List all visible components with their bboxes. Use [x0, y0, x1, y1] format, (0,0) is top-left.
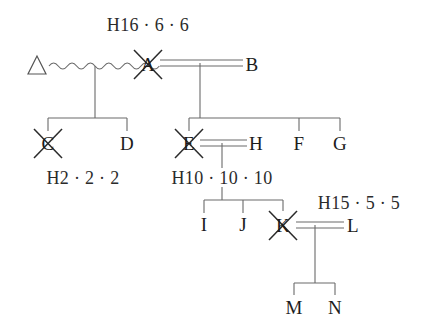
person-label-F[interactable]: F [294, 134, 305, 153]
person-label-K[interactable]: K [276, 216, 290, 235]
person-label-I[interactable]: I [201, 215, 208, 234]
haplotype-label-C: H2 · 2 · 2 [47, 169, 120, 187]
union-K-L-group [294, 222, 344, 295]
person-label-G[interactable]: G [333, 134, 347, 153]
triangle-symbol [28, 56, 46, 74]
person-label-M[interactable]: M [285, 298, 302, 317]
haplotype-label-E: H10 · 10 · 10 [171, 169, 274, 187]
haplotype-label-A: H16 · 6 · 6 [107, 16, 189, 34]
person-label-C[interactable]: C [42, 134, 55, 153]
union-triangle-A-group [28, 56, 159, 131]
person-label-J[interactable]: J [239, 215, 247, 234]
pedigree-canvas [0, 0, 429, 328]
person-label-B[interactable]: B [246, 55, 259, 74]
person-label-L[interactable]: L [347, 216, 359, 235]
haplotype-label-K: H15 · 5 · 5 [318, 194, 400, 212]
person-label-H[interactable]: H [249, 134, 263, 153]
person-label-N[interactable]: N [328, 298, 342, 317]
person-label-E[interactable]: E [183, 134, 195, 153]
person-label-D[interactable]: D [120, 134, 134, 153]
person-label-A[interactable]: A [141, 55, 155, 74]
pedigree-diagram: A B C D E H F G I J K L M N H16 · 6 · 6 … [0, 0, 429, 328]
